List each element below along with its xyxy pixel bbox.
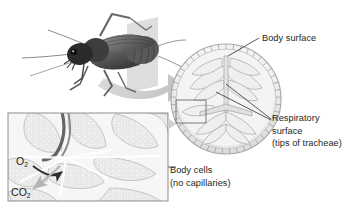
label-respiratory-line3: (tips of tracheae) (272, 137, 342, 150)
label-oxygen: O2 (16, 155, 28, 170)
label-respiratory-surface: Respiratory surface (tips of tracheae) (272, 112, 342, 150)
figure-canvas: Body surface Respiratory surface (tips o… (0, 0, 342, 211)
magnified-tissue-inset (8, 110, 168, 202)
label-body-cells-line2: (no capillaries) (170, 177, 231, 190)
label-body-cells: Body cells (no capillaries) (170, 164, 231, 189)
label-body-surface-text: Body surface (262, 33, 316, 43)
label-respiratory-line2: surface (272, 125, 342, 138)
label-oxygen-text: O (16, 155, 24, 167)
label-body-cells-line1: Body cells (170, 164, 231, 177)
label-respiratory-line1: Respiratory (272, 112, 342, 125)
label-carbon-dioxide-subscript: 2 (27, 192, 31, 199)
label-carbon-dioxide: CO2 (11, 186, 31, 201)
label-oxygen-subscript: 2 (24, 161, 28, 168)
label-carbon-dioxide-text: CO (11, 186, 27, 198)
label-body-surface: Body surface (262, 32, 316, 45)
body-cross-section-illustration (171, 44, 281, 154)
